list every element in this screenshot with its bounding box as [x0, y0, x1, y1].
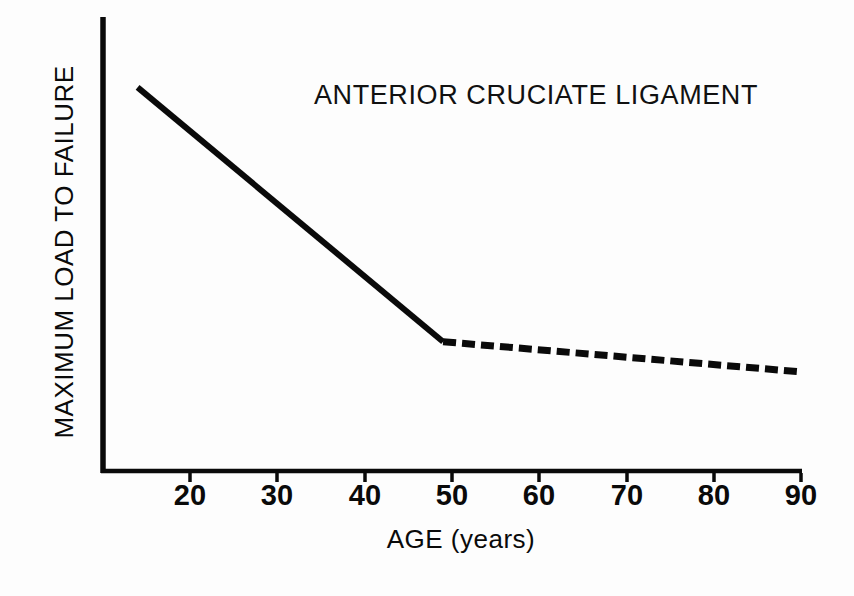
series-line-solid: [138, 87, 444, 341]
x-tick-label-7: 90: [785, 479, 817, 511]
x-tick-label-6: 80: [698, 479, 730, 511]
x-axis-label: AGE (years): [387, 524, 536, 554]
chart-title: ANTERIOR CRUCIATE LIGAMENT: [314, 80, 758, 110]
x-tick-label-3: 50: [436, 479, 468, 511]
y-axis-label: MAXIMUM LOAD TO FAILURE: [49, 65, 79, 438]
x-axis-tick-labels: 20 30 40 50 60 70 80 90: [174, 479, 817, 511]
series-line-dashed: [443, 342, 801, 372]
x-tick-label-1: 30: [261, 479, 293, 511]
x-tick-label-0: 20: [174, 479, 206, 511]
x-tick-label-4: 60: [523, 479, 555, 511]
x-tick-label-2: 40: [349, 479, 381, 511]
x-tick-label-5: 70: [611, 479, 643, 511]
line-chart-canvas: 20 30 40 50 60 70 80 90 ANTERIOR CRUCIAT…: [0, 0, 854, 596]
chart-figure: 20 30 40 50 60 70 80 90 ANTERIOR CRUCIAT…: [0, 0, 854, 596]
